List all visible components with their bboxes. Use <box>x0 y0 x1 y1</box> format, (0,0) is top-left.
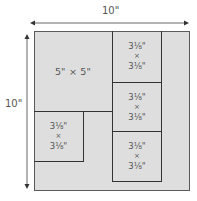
small-square-right-bottom: 3⅛" × 3⅛" <box>112 131 162 182</box>
small-square-right-top: 3⅛" × 3⅛" <box>112 31 162 83</box>
times-sign: × <box>134 152 140 161</box>
small-square-left-bottom: 3⅛" × 3⅛" <box>34 111 84 162</box>
dimension-height: 3⅛" <box>128 161 146 172</box>
times-sign: × <box>134 103 140 112</box>
dimension-height: 3⅛" <box>128 61 146 72</box>
big-square: 5" × 5" <box>34 31 113 112</box>
dimension-width: 3⅛" <box>50 121 68 132</box>
dimension-height: 3⅛" <box>50 141 68 152</box>
times-sign: × <box>134 52 140 61</box>
small-square-right-middle: 3⅛" × 3⅛" <box>112 82 162 132</box>
dimension-width: 3⅛" <box>128 41 146 52</box>
dimension-height: 3⅛" <box>128 112 146 123</box>
height-label: 10" <box>5 98 22 109</box>
width-label: 10" <box>102 5 119 16</box>
dimension-width: 3⅛" <box>128 92 146 103</box>
width-arrow-icon <box>30 20 189 26</box>
big-square-label: 5" × 5" <box>55 66 91 77</box>
times-sign: × <box>56 132 62 141</box>
dimension-width: 3⅛" <box>128 141 146 152</box>
height-arrow-icon <box>24 34 30 189</box>
